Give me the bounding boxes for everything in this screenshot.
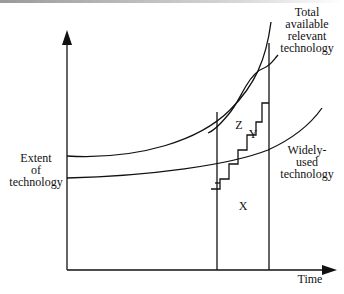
widely-used-label: Widely- used technology <box>272 144 342 180</box>
y-axis-label: Extent of technology <box>6 152 66 188</box>
label-line: technology <box>6 176 66 188</box>
label-line: technology <box>272 168 342 180</box>
region-z-label: Z <box>232 119 246 131</box>
x-axis-label: Time <box>290 273 330 285</box>
staircase-line <box>211 103 269 189</box>
total-technology-label: Total available relevant technology <box>272 6 342 54</box>
region-y-label: Y <box>246 128 260 140</box>
label-line: technology <box>272 42 342 54</box>
region-x-label: X <box>236 200 250 212</box>
y-axis-arrow-icon <box>62 30 72 45</box>
total-technology-curve <box>67 22 271 157</box>
